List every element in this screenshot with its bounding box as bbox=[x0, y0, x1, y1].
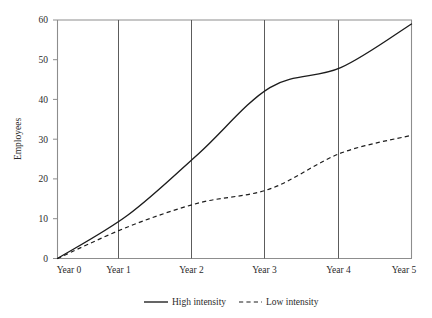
chart-figure: 0 10 20 30 40 50 60 Employees Year 0 Yea… bbox=[0, 0, 432, 318]
y-tick-label-30: 30 bbox=[39, 135, 49, 145]
chart-legend: High intensity Low intensity bbox=[144, 297, 319, 307]
x-tick-label-year-2: Year 2 bbox=[179, 265, 204, 275]
plot-frame bbox=[57, 20, 412, 259]
employees-growth-line-chart: 0 10 20 30 40 50 60 Employees Year 0 Yea… bbox=[0, 0, 432, 318]
x-tick-label-year-5: Year 5 bbox=[392, 265, 417, 275]
y-tick-label-10: 10 bbox=[39, 214, 49, 224]
y-axis-ticks bbox=[53, 20, 57, 259]
x-tick-label-year-1: Year 1 bbox=[106, 265, 131, 275]
x-tick-label-year-3: Year 3 bbox=[252, 265, 277, 275]
y-axis-title: Employees bbox=[13, 118, 23, 161]
legend-label-low-intensity: Low intensity bbox=[266, 297, 319, 307]
y-axis-tick-labels: 0 10 20 30 40 50 60 bbox=[39, 15, 49, 263]
y-tick-label-50: 50 bbox=[39, 55, 49, 65]
x-axis-tick-labels: Year 0 Year 1 Year 2 Year 3 Year 4 Year … bbox=[57, 265, 417, 275]
legend-label-high-intensity: High intensity bbox=[172, 297, 226, 307]
x-tick-label-year-4: Year 4 bbox=[326, 265, 351, 275]
y-tick-label-40: 40 bbox=[39, 95, 49, 105]
y-tick-label-20: 20 bbox=[39, 174, 49, 184]
series-line-low-intensity bbox=[58, 135, 412, 258]
x-tick-label-year-0: Year 0 bbox=[57, 265, 82, 275]
vertical-gridlines bbox=[119, 20, 339, 259]
y-tick-label-0: 0 bbox=[43, 254, 48, 264]
y-tick-label-60: 60 bbox=[39, 15, 49, 25]
series-line-high-intensity bbox=[58, 24, 412, 259]
